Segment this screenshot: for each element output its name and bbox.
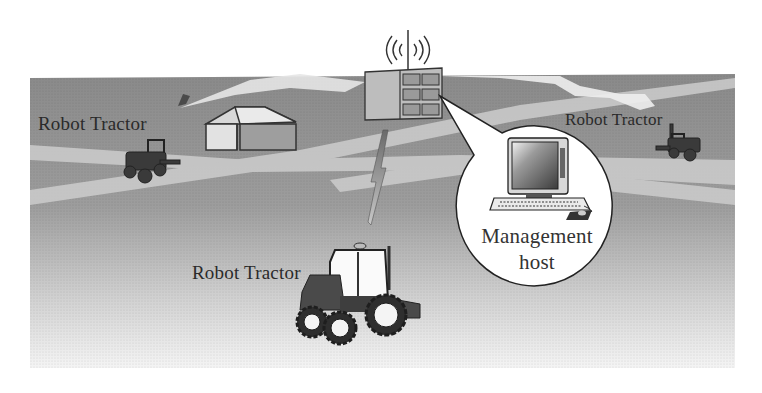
label-management-host: Management host <box>462 223 612 275</box>
label-robot-tractor-right: Robot Tractor <box>565 110 663 130</box>
label-management-host-line1: Management <box>462 223 612 249</box>
diagram-canvas <box>0 0 762 393</box>
label-robot-tractor-main: Robot Tractor <box>192 262 301 284</box>
base-station-icon <box>365 30 442 120</box>
label-robot-tractor-left: Robot Tractor <box>38 113 147 135</box>
label-management-host-line2: host <box>462 249 612 275</box>
